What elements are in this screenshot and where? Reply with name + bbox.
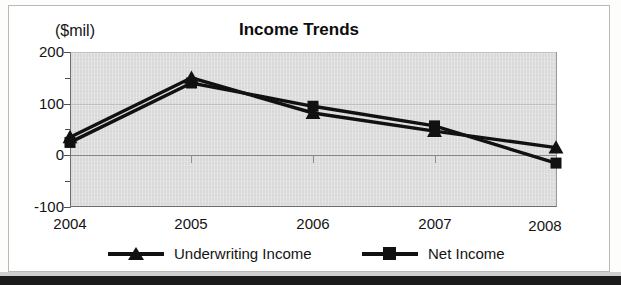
x-tick-label-2006: 2006 [283,215,343,232]
y-tick-0 [64,155,70,156]
x-tick-label-2004: 2004 [40,215,100,232]
y-tick-150 [65,78,70,79]
y-tick-100 [64,104,70,105]
x-tick-2005 [191,156,192,163]
scanned-page: ($mil) Income Trends 200 100 0 -100 2004… [0,0,621,285]
gridline-200 [70,52,556,53]
y-axis-tick-labels: 200 100 0 -100 [14,0,64,285]
plot-texture [70,52,556,206]
page-bottom-bar [0,276,621,285]
x-tick-2008 [556,156,557,163]
y-axis-spine [70,52,71,208]
y-tick-neg100 [64,207,70,208]
legend-label-underwriting-income: Underwriting Income [174,245,312,262]
y-tick-label-100: 100 [18,95,64,112]
y-tick-label-200: 200 [18,43,64,60]
y-tick-50 [65,129,70,130]
plot-area [70,52,557,207]
y-tick-label-neg100: -100 [18,198,64,215]
legend-label-net-income: Net Income [428,245,505,262]
x-tick-label-2007: 2007 [405,215,465,232]
y-tick-neg50 [65,181,70,182]
legend-item-underwriting-income[interactable]: Underwriting Income [108,240,312,266]
x-tick-2006 [313,156,314,163]
chart-title: Income Trends [189,20,409,40]
square-marker-icon [362,242,418,264]
gridline-100 [70,104,556,105]
triangle-marker-icon [108,242,164,264]
legend-item-net-income[interactable]: Net Income [362,240,505,266]
chart-legend: Underwriting Income Net Income [100,240,520,266]
y-tick-200 [64,52,70,53]
x-tick-2007 [435,156,436,163]
x-tick-label-2005: 2005 [161,215,221,232]
x-tick-label-2008: 2008 [515,217,575,234]
y-tick-label-0: 0 [18,146,64,163]
